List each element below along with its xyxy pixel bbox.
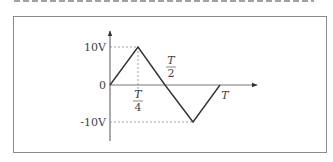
y-label-zero: 0 [99, 79, 106, 92]
waveform-chart: 10V 0 -10V T 4 T 2 T [0, 0, 333, 162]
y-label-10v: 10V [84, 41, 107, 54]
svg-text:2: 2 [168, 67, 175, 80]
svg-text:T: T [167, 54, 176, 67]
x-label-t: T [221, 89, 230, 102]
svg-text:4: 4 [135, 101, 142, 114]
x-label-t-half: T 2 [166, 54, 176, 80]
svg-text:T: T [134, 88, 143, 101]
x-label-t-quarter: T 4 [133, 88, 143, 114]
y-label-neg10v: -10V [80, 116, 107, 129]
